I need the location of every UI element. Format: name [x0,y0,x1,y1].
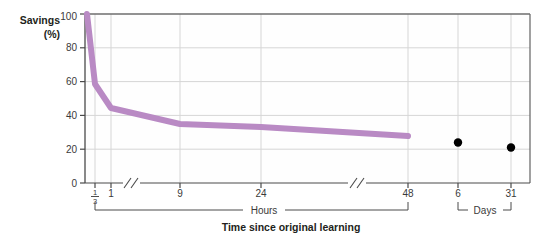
data-point-day-31 [507,143,515,151]
x-tick-label: 6 [455,188,461,199]
x-axis-ticks [95,183,511,188]
hours-group-label: Hours [251,205,278,216]
y-tick-label: 0 [71,178,77,189]
y-tick-label: 60 [66,76,78,87]
x-axis-tick-labels: 1 3 1 9 24 48 6 31 [91,188,517,207]
y-axis-tick-labels: 0 20 40 60 80 100 [60,11,77,189]
y-tick-label: 40 [66,110,78,121]
x-tick-label: 31 [505,188,517,199]
x-tick-label: 48 [402,188,414,199]
y-axis-title-line2: (%) [44,28,60,40]
x-tick-label: 1 [108,188,114,199]
fraction-numerator: 1 [93,188,97,197]
x-axis-title: Time since original learning [222,221,361,233]
x-tick-label: 24 [255,188,267,199]
y-axis-title: Savings (%) [20,14,60,40]
y-tick-label: 80 [66,42,78,53]
y-axis-title-line1: Savings [20,14,60,26]
forgetting-curve-chart: 0 20 40 60 80 100 Savings (%) [0,0,548,239]
data-point-day-6 [454,138,462,146]
x-tick-label: 9 [177,188,183,199]
y-tick-label: 100 [60,11,77,22]
days-group-label: Days [474,205,497,216]
plot-background [85,14,530,183]
y-axis-ticks [80,14,85,183]
y-tick-label: 20 [66,144,78,155]
chart-canvas: 0 20 40 60 80 100 Savings (%) [0,0,548,239]
